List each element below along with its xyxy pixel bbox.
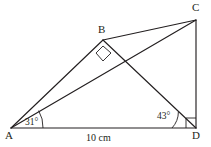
vertex-label-B: B [98,24,105,35]
angle-arc-at-A [39,111,43,128]
side-label-AD: 10 cm [86,133,111,143]
angle-label-at-D: 43° [157,112,170,122]
vertex-label-D: D [192,130,200,141]
segment-AB [11,40,103,128]
segment-BC [103,20,196,40]
angle-label-at-A: 31° [25,118,38,128]
vertex-label-A: A [5,130,13,141]
right-angle-marker-at-B [96,46,111,61]
vertex-label-C: C [192,2,199,13]
angle-arc-at-D [172,112,178,128]
segment-BD [103,40,196,128]
geometry-figure: A B C D 31° 43° 10 cm [0,0,211,147]
